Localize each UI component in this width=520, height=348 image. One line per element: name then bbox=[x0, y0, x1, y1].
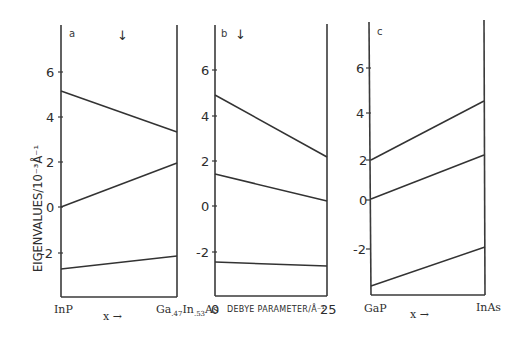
panel-a-tag: a bbox=[69, 28, 75, 39]
panel-b-series-2 bbox=[215, 174, 327, 201]
panel-c-tag: c bbox=[377, 26, 383, 37]
panel-a-arrow-marker: ↓ bbox=[117, 28, 128, 43]
svg-text:-2: -2 bbox=[353, 242, 366, 257]
svg-text:2: 2 bbox=[201, 154, 209, 169]
panel-b-tag: b bbox=[221, 28, 227, 39]
svg-text:0: 0 bbox=[359, 193, 367, 208]
panel-a: a ↓ 6 4 2 0 -2 InP Ga.47In.53As x → bbox=[40, 25, 219, 323]
svg-text:6: 6 bbox=[356, 61, 364, 76]
panel-b-arrow-marker: ↓ bbox=[235, 27, 246, 42]
svg-text:6: 6 bbox=[201, 63, 209, 78]
panel-c-series-1 bbox=[371, 101, 484, 160]
panel-a-series-3 bbox=[61, 256, 177, 269]
svg-text:-2: -2 bbox=[40, 246, 53, 261]
svg-text:2: 2 bbox=[46, 155, 54, 170]
svg-text:6: 6 bbox=[46, 65, 54, 80]
panel-c-x-axis-label: x → bbox=[410, 308, 429, 321]
panel-b-x-right-label: 25 bbox=[320, 302, 337, 317]
panel-a-series-1 bbox=[61, 91, 177, 132]
panel-b-x-axis-label: DEBYE PARAMETER/Å⁻¹ bbox=[227, 303, 325, 314]
panel-a-x-right-label: Ga.47In.53As bbox=[156, 303, 219, 318]
svg-text:2: 2 bbox=[359, 153, 367, 168]
panel-b: b ↓ 6 4 2 0 -2 0 DEBYE PARAMETER/Å⁻¹ 25 bbox=[196, 24, 337, 317]
panel-c-series-2 bbox=[371, 155, 484, 199]
svg-text:0: 0 bbox=[201, 199, 209, 214]
panel-b-series-1 bbox=[215, 95, 327, 157]
panel-b-series-3 bbox=[215, 262, 327, 266]
svg-text:4: 4 bbox=[46, 110, 54, 125]
panel-c-x-left-label: GaP bbox=[364, 302, 387, 315]
panel-c-y-ticks: 6 4 2 0 -2 bbox=[353, 61, 371, 257]
panel-c: c 6 4 2 0 -2 GaP InAs x → bbox=[353, 20, 501, 321]
panel-a-x-axis-label: x → bbox=[103, 310, 122, 323]
panel-c-series-3 bbox=[371, 247, 485, 286]
figure-canvas: EIGENVALUES/10⁻³Å⁻¹ a ↓ 6 4 2 0 -2 InP G… bbox=[0, 0, 520, 348]
svg-text:0: 0 bbox=[46, 200, 54, 215]
svg-text:4: 4 bbox=[356, 106, 364, 121]
panel-c-left-axis bbox=[369, 22, 371, 295]
panel-a-series-2 bbox=[61, 163, 177, 207]
svg-text:4: 4 bbox=[201, 109, 209, 124]
panel-a-x-left-label: InP bbox=[54, 303, 73, 316]
panel-b-y-ticks: 6 4 2 0 -2 bbox=[196, 63, 217, 260]
panel-b-x-left-label: 0 bbox=[211, 302, 219, 317]
svg-text:-2: -2 bbox=[196, 245, 209, 260]
panel-c-right-axis bbox=[484, 20, 485, 295]
panel-c-x-right-label: InAs bbox=[476, 301, 501, 314]
